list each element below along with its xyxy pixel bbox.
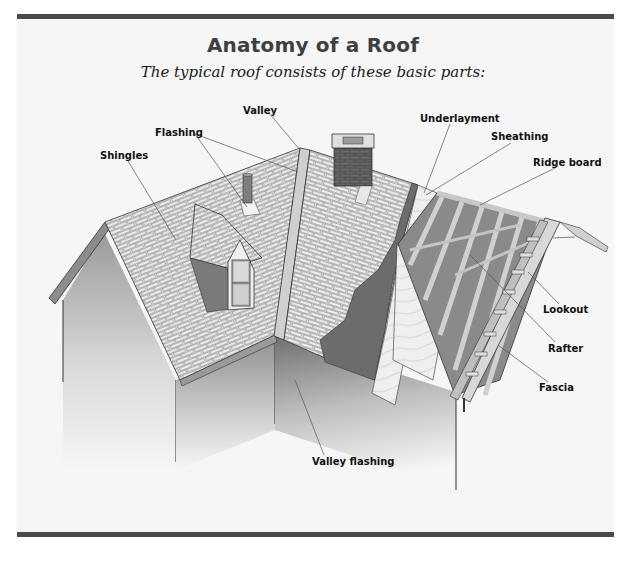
- roof-illustration: [0, 0, 626, 562]
- label-ridge-board: Ridge board: [533, 157, 602, 169]
- label-valley-flashing: Valley flashing: [312, 456, 395, 468]
- label-underlayment: Underlayment: [420, 113, 500, 125]
- label-valley: Valley: [243, 105, 277, 117]
- label-lookout: Lookout: [543, 304, 588, 316]
- label-flashing: Flashing: [155, 127, 203, 139]
- label-fascia: Fascia: [539, 382, 574, 394]
- label-shingles: Shingles: [100, 150, 148, 162]
- label-sheathing: Sheathing: [491, 131, 548, 143]
- label-rafter: Rafter: [548, 343, 583, 355]
